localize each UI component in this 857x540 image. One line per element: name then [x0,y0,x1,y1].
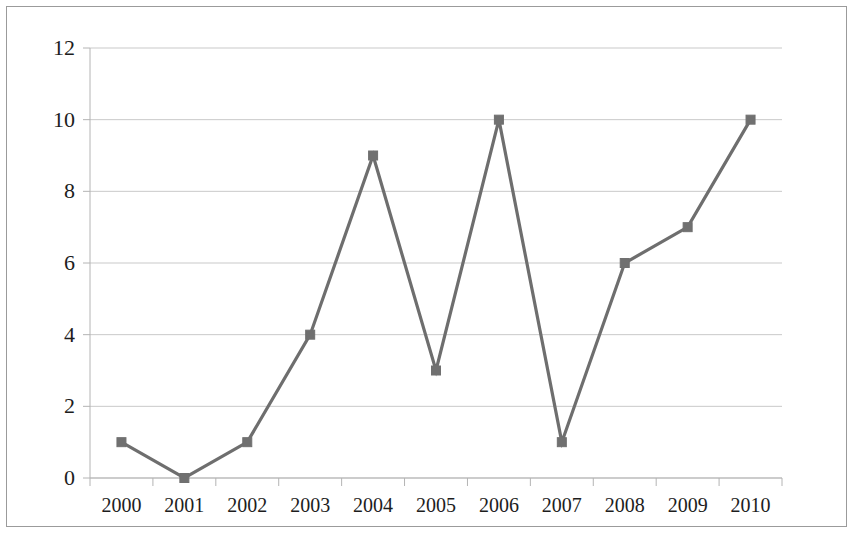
y-axis-tick-label: 4 [29,324,75,346]
x-axis-tick-label: 2010 [716,495,786,515]
x-axis-tick-label: 2001 [149,495,219,515]
y-axis-tick-label: 8 [29,180,75,202]
y-axis-tick-label: 12 [29,37,75,59]
y-axis-tick-label: 6 [29,252,75,274]
x-axis-tick-label: 2005 [401,495,471,515]
data-point-marker [180,474,189,483]
data-point-marker [683,223,692,232]
x-axis-tick-label: 2003 [275,495,345,515]
data-point-marker [369,151,378,160]
line-chart-canvas [0,0,857,540]
y-axis-tick-label: 10 [29,109,75,131]
y-axis-tick-label: 2 [29,395,75,417]
y-axis-tick-label: 0 [29,467,75,489]
x-axis-tick-label: 2004 [338,495,408,515]
data-point-marker [243,438,252,447]
data-point-marker [306,330,315,339]
data-point-marker [620,259,629,268]
x-axis-tick-label: 2008 [590,495,660,515]
data-point-marker [117,438,126,447]
chart-figure: 0246810122000200120022003200420052006200… [0,0,857,540]
data-point-marker [432,366,441,375]
data-point-marker [494,115,503,124]
data-line-series-1 [121,120,750,478]
data-point-marker [746,115,755,124]
data-point-marker [557,438,566,447]
x-axis-tick-label: 2002 [212,495,282,515]
x-axis-tick-label: 2009 [653,495,723,515]
x-axis-tick-label: 2007 [527,495,597,515]
x-axis-tick-label: 2000 [86,495,156,515]
x-axis-tick-label: 2006 [464,495,534,515]
